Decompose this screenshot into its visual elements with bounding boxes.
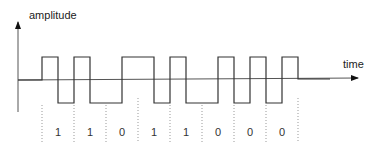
time-label: time — [343, 58, 364, 70]
bit-label: 0 — [119, 126, 125, 138]
bit-label: 0 — [247, 126, 253, 138]
manchester-encoding-diagram: amplitude time 1 1 0 1 1 0 0 0 — [0, 0, 377, 149]
bit-label: 0 — [279, 126, 285, 138]
amplitude-label: amplitude — [29, 9, 77, 21]
bit-label: 1 — [55, 126, 61, 138]
bit-label: 1 — [183, 126, 189, 138]
bit-separators — [42, 98, 298, 143]
bit-label: 1 — [151, 126, 157, 138]
bit-label: 0 — [215, 126, 221, 138]
bit-label: 1 — [87, 126, 93, 138]
